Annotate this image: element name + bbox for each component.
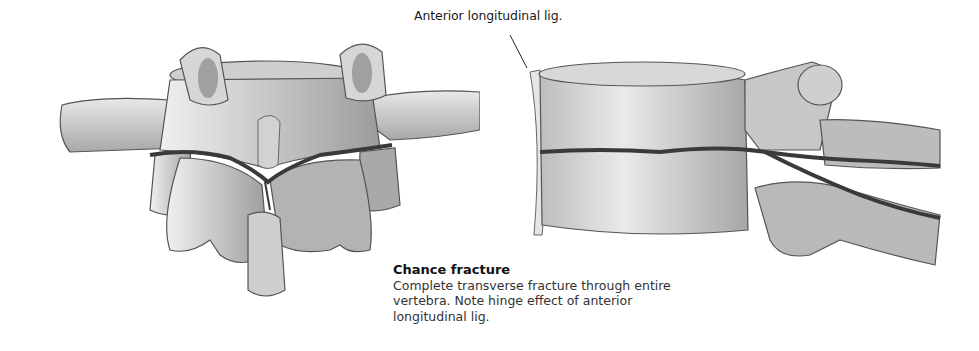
- lateral-vertebra-illustration: [520, 40, 960, 275]
- anterior-ligament-label: Anterior longitudinal lig.: [414, 8, 562, 23]
- caption-body: Complete transverse fracture through ent…: [393, 278, 683, 325]
- figure-caption: Chance fracture Complete transverse frac…: [393, 262, 683, 324]
- caption-title: Chance fracture: [393, 262, 683, 278]
- chance-fracture-figure: Anterior longitudinal lig. Chance fractu…: [0, 0, 979, 351]
